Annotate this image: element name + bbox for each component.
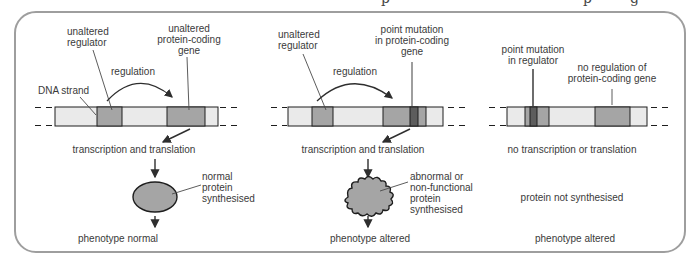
gene-leader-line <box>187 57 189 110</box>
phenotype-label: phenotype normal <box>58 233 178 244</box>
process-label: no transcription or translation <box>502 144 642 155</box>
transcription-arrow <box>383 129 410 142</box>
gene-label: no regulation of protein-coding gene <box>557 62 667 84</box>
transcription-arrow <box>163 129 190 142</box>
regulation-arc-arrow <box>107 83 172 101</box>
process-label: transcription and translation <box>293 144 433 155</box>
gene-mutation-diagram: p p g <box>0 0 697 262</box>
regulator-leader-line <box>93 50 112 110</box>
regulator-label: unaltered regulator <box>67 26 109 48</box>
gene-label: unaltered protein-coding gene <box>149 23 229 56</box>
protein-label: abnormal or non-functional protein synth… <box>410 171 473 215</box>
gene-segment <box>595 107 630 126</box>
protein-label: normal protein synthesised <box>202 171 255 204</box>
normal-protein-shape <box>133 182 177 212</box>
dna-strand-label: DNA strand <box>38 85 89 96</box>
protein-leader-line <box>172 185 201 194</box>
regulation-arc-arrow <box>317 84 392 101</box>
gene-segment <box>167 107 205 126</box>
regulator-leader-line <box>303 54 326 110</box>
regulation-label: regulation <box>103 66 163 77</box>
panel-2-dna-strand <box>271 107 467 126</box>
panel-3-dna-strand <box>489 107 670 126</box>
abnormal-protein-shape <box>345 177 393 217</box>
point-mutation-stripe <box>410 107 418 126</box>
gene-label: point mutation in protein-coding gene <box>367 24 457 57</box>
panel-1-dna-strand <box>35 107 239 126</box>
regulator-label: unaltered regulator <box>278 29 320 51</box>
point-mutation-stripe <box>530 107 537 126</box>
protein-label: protein not synthesised <box>512 192 632 203</box>
regulator-segment <box>312 107 333 126</box>
process-label: transcription and translation <box>64 144 204 155</box>
phenotype-label: phenotype altered <box>515 233 635 244</box>
regulator-segment <box>97 107 122 126</box>
regulation-label: regulation <box>325 66 385 77</box>
gene-segment <box>383 107 426 126</box>
phenotype-label: phenotype altered <box>310 233 430 244</box>
